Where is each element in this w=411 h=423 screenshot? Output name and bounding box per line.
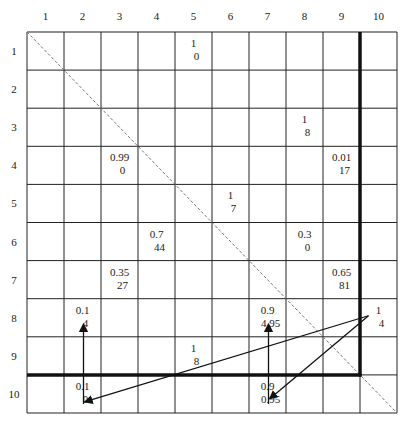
row-label: 7 — [11, 274, 17, 286]
column-label: 7 — [265, 10, 271, 22]
column-label: 3 — [117, 10, 123, 22]
cell-value-top: 0.3 — [298, 228, 312, 240]
column-label: 10 — [373, 10, 385, 22]
cell-value-pair: 0.990 — [110, 151, 130, 176]
cell-value-bottom: 27 — [117, 279, 129, 291]
cell-value-pair: 14 — [376, 304, 385, 329]
cell-value-top: 0.35 — [110, 266, 130, 278]
column-label: 2 — [80, 10, 86, 22]
grid-svg: 1234567891012345678910 10180.9900.011717… — [0, 0, 411, 423]
cell-values: 10180.9900.0117170.7440.300.35270.65810.… — [76, 37, 385, 405]
cell-value-bottom: 81 — [339, 279, 350, 291]
row-label: 8 — [11, 312, 17, 324]
cell-value-pair: 0.94.95 — [261, 304, 281, 329]
cell-value-bottom: 17 — [339, 164, 351, 176]
cell-value-top: 0.1 — [76, 380, 90, 392]
cell-value-pair: 0.3527 — [110, 266, 130, 291]
cell-value-top: 0.7 — [150, 228, 164, 240]
cell-value-bottom: 4.95 — [261, 317, 281, 329]
cell-value-top: 0.65 — [332, 266, 352, 278]
row-label: 1 — [11, 45, 17, 57]
cell-value-bottom: 4 — [379, 317, 385, 329]
cell-value-top: 1 — [376, 304, 382, 316]
row-label: 6 — [11, 236, 17, 248]
row-label: 3 — [11, 121, 17, 133]
cell-value-pair: 10 — [191, 37, 200, 62]
column-label: 4 — [154, 10, 160, 22]
cell-value-pair: 17 — [228, 189, 237, 214]
cell-value-pair: 0.30 — [298, 228, 312, 253]
column-label: 5 — [191, 10, 197, 22]
column-label: 9 — [339, 10, 345, 22]
arrows — [84, 316, 369, 404]
cell-value-top: 0.1 — [76, 304, 90, 316]
cell-value-top: 1 — [191, 37, 197, 49]
arrow-arrow-to-r10c7 — [270, 316, 369, 399]
cell-value-pair: 0.6581 — [332, 266, 352, 291]
cell-value-bottom: 8 — [194, 355, 200, 367]
cell-value-top: 0.99 — [110, 151, 130, 163]
arrow-arrow-to-r10c2 — [85, 316, 369, 402]
cell-value-top: 1 — [302, 113, 308, 125]
cell-value-bottom: 0.95 — [261, 393, 281, 405]
cell-value-bottom: 0 — [120, 164, 126, 176]
cell-value-bottom: 8 — [305, 126, 311, 138]
cell-value-top: 1 — [228, 189, 234, 201]
row-label: 9 — [11, 350, 17, 362]
cell-value-bottom: 7 — [231, 202, 237, 214]
cell-value-top: 0.01 — [332, 151, 351, 163]
cell-value-bottom: 44 — [154, 241, 166, 253]
row-label: 10 — [9, 388, 21, 400]
cell-value-pair: 0.14 — [76, 304, 90, 329]
cell-value-pair: 18 — [191, 342, 200, 367]
row-label: 5 — [11, 197, 17, 209]
column-label: 6 — [228, 10, 234, 22]
cell-value-bottom: 0 — [305, 241, 311, 253]
cell-value-pair: 0.0117 — [332, 151, 351, 176]
column-label: 8 — [302, 10, 308, 22]
cell-value-top: 0.9 — [261, 304, 275, 316]
cell-value-top: 1 — [191, 342, 197, 354]
row-label: 4 — [11, 159, 17, 171]
row-label: 2 — [11, 83, 17, 95]
cell-value-bottom: 0 — [194, 50, 200, 62]
cell-value-pair: 0.744 — [150, 228, 166, 253]
column-label: 1 — [43, 10, 49, 22]
cell-value-pair: 18 — [302, 113, 311, 138]
grid-diagram: 1234567891012345678910 10180.9900.011717… — [0, 0, 411, 423]
cell-value-top: 0.9 — [261, 380, 275, 392]
